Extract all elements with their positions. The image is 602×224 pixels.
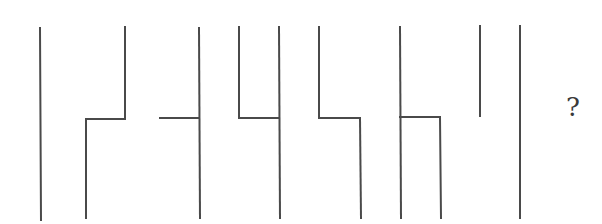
figure-1 xyxy=(40,28,41,220)
figure-4 xyxy=(239,27,280,218)
figure-6 xyxy=(400,27,441,218)
line-segment xyxy=(40,28,41,220)
question-mark: ? xyxy=(566,94,580,120)
figure-7 xyxy=(480,26,520,218)
figure-2 xyxy=(86,27,125,218)
puzzle-figure xyxy=(0,0,602,224)
line-segment xyxy=(440,117,441,218)
line-segment xyxy=(199,28,200,218)
line-segment xyxy=(400,27,401,218)
figure-5 xyxy=(319,27,361,218)
line-segment xyxy=(360,118,361,218)
line-segment xyxy=(279,27,280,218)
figure-3 xyxy=(160,28,200,218)
